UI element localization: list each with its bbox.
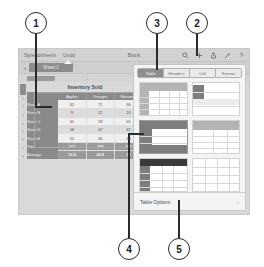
table-object[interactable]: Inventory Sold Apples Oranges Bananas xyxy=(27,82,143,160)
table-row[interactable]: Store C 41 28 55 xyxy=(27,117,143,125)
row-label[interactable]: Store D xyxy=(27,126,58,134)
row-number[interactable]: 1 xyxy=(20,95,26,103)
undo-button[interactable]: Undo xyxy=(63,52,75,58)
table-options-row[interactable]: Table Options › xyxy=(134,192,245,210)
thumb-grid xyxy=(193,159,240,191)
tab-format[interactable]: Format xyxy=(216,69,241,77)
popover-arrow xyxy=(64,60,72,64)
thumb-grid xyxy=(140,121,187,153)
back-to-spreadsheets-button[interactable]: Spreadsheets xyxy=(24,52,56,58)
row-number-gutter: 1 2 3 4 5 6 7 8 xyxy=(20,84,26,161)
callout-leader-5 xyxy=(178,200,180,238)
callout-marker-4: 4 xyxy=(118,238,140,260)
callout-stem-1 xyxy=(35,34,37,44)
table-cell[interactable]: 41 xyxy=(58,117,86,125)
table-cell[interactable]: 28 xyxy=(86,117,114,125)
row-label-total[interactable]: Total xyxy=(27,142,58,150)
corner-cell[interactable] xyxy=(27,92,58,100)
table-cell-average[interactable]: 40.8 xyxy=(86,151,114,159)
row-number[interactable]: 6 xyxy=(20,136,26,144)
table-cell[interactable]: 42 xyxy=(58,100,86,108)
add-sheet-button[interactable]: + xyxy=(21,65,29,71)
table-cell[interactable]: 18 xyxy=(58,126,86,134)
thumb-grid xyxy=(140,159,187,191)
tab-headers[interactable]: Headers xyxy=(164,69,190,77)
column-tick-1[interactable]: + xyxy=(55,76,120,81)
row-number[interactable]: 2 xyxy=(20,103,26,111)
tab-table[interactable]: Table xyxy=(138,69,164,77)
callout-label-2: 2 xyxy=(194,18,200,29)
row-number[interactable]: 5 xyxy=(20,128,26,136)
table-cell[interactable]: 47 xyxy=(86,126,114,134)
callout-marker-5: 5 xyxy=(168,238,190,260)
table-inspector-popover: Table Headers Cell Format xyxy=(133,64,246,211)
callout-label-3: 3 xyxy=(154,18,160,29)
row-number[interactable]: 3 xyxy=(20,112,26,120)
toolbar-right-group xyxy=(182,49,245,62)
table-style-grid xyxy=(139,82,240,192)
callout-label-5: 5 xyxy=(176,244,182,255)
app-toolbar: Spreadsheets Undo Blank xyxy=(19,49,249,62)
table-row[interactable]: Store B 9 12 24 xyxy=(27,109,143,117)
callout-marker-2: 2 xyxy=(186,12,208,34)
table-cell-total[interactable]: 204 xyxy=(86,142,114,150)
row-select-handle[interactable] xyxy=(20,84,26,95)
table-cell-average[interactable]: 32.4 xyxy=(58,151,86,159)
thumb-grid xyxy=(193,121,240,153)
callout-stem-2 xyxy=(196,34,198,44)
callout-stem-3 xyxy=(156,34,158,44)
table-cell[interactable]: 9 xyxy=(58,109,86,117)
callout-marker-3: 3 xyxy=(146,12,168,34)
row-number[interactable]: 7 xyxy=(20,145,26,153)
toolbar-left-group: Spreadsheets Undo xyxy=(24,52,75,58)
table-style-thumbnail-5[interactable] xyxy=(139,158,188,192)
callout-leader-3 xyxy=(156,44,158,70)
row-label[interactable]: Store E xyxy=(27,134,58,142)
table-title: Inventory Sold xyxy=(27,82,143,92)
table-style-thumbnail-2[interactable] xyxy=(192,82,241,116)
callout-marker-1: 1 xyxy=(25,12,47,34)
table-cell[interactable]: 12 xyxy=(86,109,114,117)
table-cell[interactable]: 52 xyxy=(58,134,86,142)
callout-label-1: 1 xyxy=(33,18,39,29)
figure-canvas: 1 3 2 4 5 Spreadsheets Undo Blank xyxy=(0,0,264,267)
callout-leader-4 xyxy=(128,133,130,238)
column-header-apples[interactable]: Apples xyxy=(58,92,86,100)
chevron-right-icon: › xyxy=(237,199,239,205)
help-icon[interactable] xyxy=(238,52,245,59)
data-table[interactable]: Apples Oranges Bananas Store A 42 71 36 xyxy=(27,92,143,160)
callout-leader-2 xyxy=(196,44,198,56)
table-summary-row[interactable]: Average 32.4 40.8 33 xyxy=(27,151,143,159)
callout-leader-1-tip xyxy=(35,106,52,108)
table-style-thumbnail-6[interactable] xyxy=(192,158,241,192)
callout-leader-1 xyxy=(35,44,37,108)
row-number[interactable]: 4 xyxy=(20,120,26,128)
table-style-thumbnail-1[interactable] xyxy=(139,82,188,116)
table-cell-total[interactable]: 162 xyxy=(58,142,86,150)
callout-label-4: 4 xyxy=(126,244,132,255)
search-icon[interactable] xyxy=(182,52,189,59)
format-brush-icon[interactable] xyxy=(224,52,231,59)
row-label[interactable]: Store B xyxy=(27,109,58,117)
table-cell[interactable]: 46 xyxy=(86,134,114,142)
table-style-thumbnail-3-selected[interactable] xyxy=(139,120,188,154)
table-header-row: Apples Oranges Bananas xyxy=(27,92,143,100)
table-summary-row[interactable]: Total 162 204 165 xyxy=(27,142,143,150)
row-number[interactable]: 8 xyxy=(20,153,26,161)
thumb-row-band xyxy=(193,99,240,105)
callout-leader-4-tip xyxy=(128,133,144,135)
column-select-handle[interactable] xyxy=(27,76,55,81)
table-row[interactable]: Store D 18 47 31 xyxy=(27,126,143,134)
row-label[interactable]: Store C xyxy=(27,117,58,125)
table-row[interactable]: Store E 52 46 19 xyxy=(27,134,143,142)
inspector-tab-bar: Table Headers Cell Format xyxy=(137,68,242,78)
thumb-grid xyxy=(140,83,187,115)
column-header-oranges[interactable]: Oranges xyxy=(86,92,114,100)
table-style-thumbnail-4[interactable] xyxy=(192,120,241,154)
table-options-label: Table Options xyxy=(140,199,237,205)
table-cell[interactable]: 71 xyxy=(86,100,114,108)
tab-cell[interactable]: Cell xyxy=(190,69,216,77)
row-label-average[interactable]: Average xyxy=(27,151,58,159)
share-icon[interactable] xyxy=(210,52,217,59)
